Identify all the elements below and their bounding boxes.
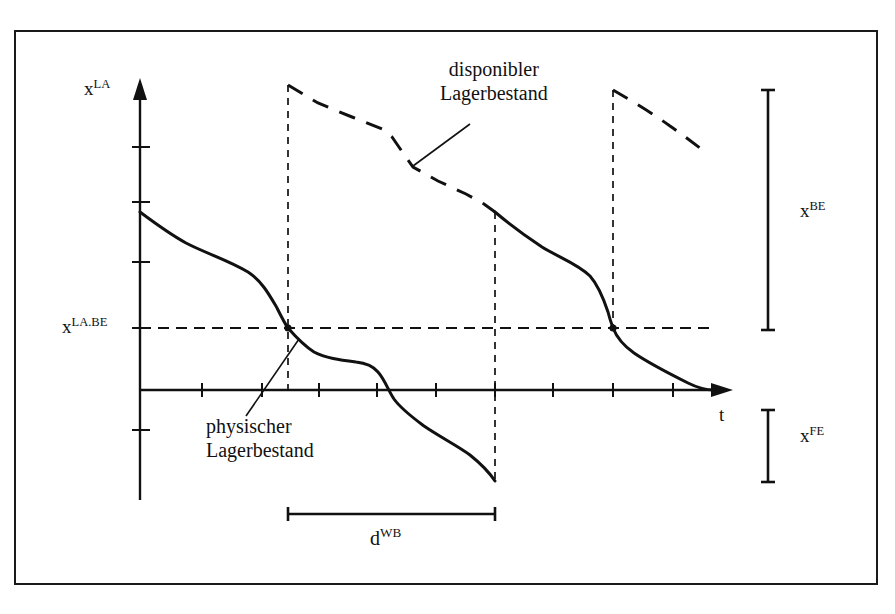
figure-frame — [14, 30, 878, 585]
x-axis-label: t — [719, 404, 724, 426]
order-quantity-bracket-label: xBE — [800, 200, 826, 222]
available-stock-annotation-line1: disponibler — [440, 58, 548, 82]
physical-stock-annotation-line1: physischer — [206, 415, 314, 439]
y-axis-label: xLA — [84, 78, 110, 100]
figure-page: xLA xLA.BE t disponibler Lagerbestand ph… — [0, 0, 895, 614]
physical-stock-annotation-line2: Lagerbestand — [206, 439, 314, 463]
caption-fragment — [30, 596, 570, 610]
threshold-axis-label: xLA.BE — [62, 316, 107, 338]
lead-time-bracket-label: dWB — [370, 527, 401, 551]
available-stock-annotation: disponibler Lagerbestand — [440, 58, 548, 105]
physical-stock-annotation: physischer Lagerbestand — [206, 415, 314, 462]
shortage-quantity-bracket-label: xFE — [800, 425, 824, 447]
available-stock-annotation-line2: Lagerbestand — [440, 82, 548, 106]
